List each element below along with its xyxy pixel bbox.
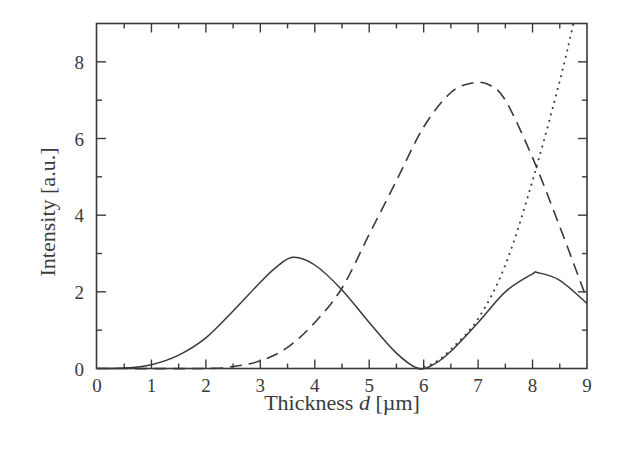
x-tick-label: 8 bbox=[528, 375, 538, 396]
x-axis-label: Thickness d [µm] bbox=[264, 390, 420, 415]
y-axis-label: Intensity [a.u.] bbox=[35, 148, 60, 277]
axis-ticks bbox=[97, 24, 587, 369]
y-tick-label: 0 bbox=[75, 359, 85, 380]
plot-frame bbox=[97, 24, 588, 369]
x-tick-label: 1 bbox=[147, 375, 157, 396]
y-tick-label: 4 bbox=[75, 205, 85, 226]
curve-dashed bbox=[97, 82, 587, 368]
x-tick-label: 0 bbox=[92, 375, 102, 396]
x-tick-label: 9 bbox=[582, 375, 592, 396]
y-tick-label: 8 bbox=[75, 52, 85, 73]
curve-solid bbox=[97, 257, 587, 369]
x-tick-label: 6 bbox=[419, 375, 429, 396]
y-tick-labels: 02468 bbox=[75, 52, 85, 380]
intensity-vs-thickness-chart: 0123456789 02468 Thickness d [µm] Intens… bbox=[0, 0, 619, 455]
y-tick-label: 6 bbox=[75, 129, 85, 150]
y-tick-label: 2 bbox=[75, 282, 85, 303]
plot-curves bbox=[97, 24, 587, 369]
x-tick-label: 2 bbox=[201, 375, 211, 396]
x-tick-label: 7 bbox=[473, 375, 483, 396]
curve-dotted bbox=[418, 24, 573, 369]
